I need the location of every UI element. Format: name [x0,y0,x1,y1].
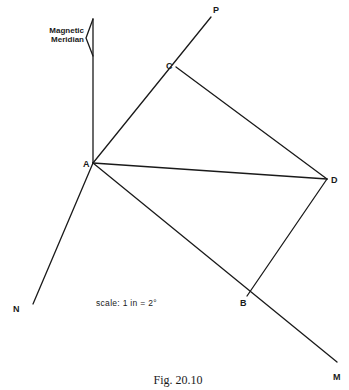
scale-label: scale: 1 in = 2° [96,298,157,308]
label-N: N [13,304,20,314]
label-P: P [213,5,219,15]
label-A: A [83,159,90,169]
meridian-arrow-icon [86,19,93,56]
label-B: B [240,298,247,308]
label-M: M [333,372,341,382]
label-D: D [331,175,338,185]
line-AP [93,17,211,163]
line-CD [176,67,327,179]
line-AD [93,163,327,179]
line-DB [247,179,327,296]
line-AM [93,163,337,362]
meridian-label-line2: Meridian [51,35,84,44]
label-C: C [166,61,173,71]
line-AN [33,163,93,304]
meridian-label-line1: Magnetic [49,26,84,35]
figure-caption: Fig. 20.10 [153,373,202,387]
vector-diagram: Magnetic Meridian P C A D B M N scale: 1… [0,0,349,390]
